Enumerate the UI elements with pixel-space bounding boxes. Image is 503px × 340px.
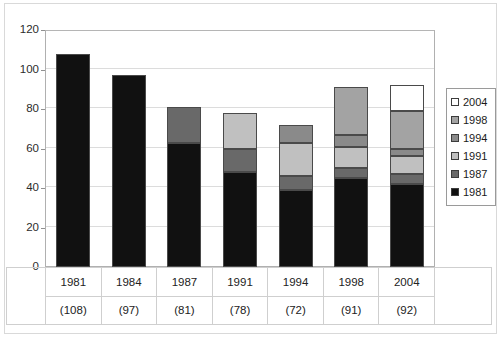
x-axis-total-label: (91) [324,297,379,325]
bar-segment[interactable] [167,107,201,143]
bar-segment[interactable] [223,172,257,267]
bar-column[interactable] [334,30,368,267]
x-axis-total-label: (72) [268,297,323,325]
y-tick-label: 60 [6,142,39,154]
legend-item[interactable]: 1987 [451,165,492,183]
y-tick-label: 100 [6,63,39,75]
legend-item[interactable]: 1991 [451,147,492,165]
bar-column[interactable] [56,30,90,267]
bar-segment[interactable] [334,147,368,169]
bar-segment[interactable] [223,113,257,149]
legend-item[interactable]: 2004 [451,93,492,111]
bar-segment[interactable] [390,149,424,157]
bar-segment[interactable] [223,149,257,173]
bar-column[interactable] [390,30,424,267]
x-axis-cell: 1981(108) [46,267,102,325]
x-axis-category-label: 1987 [157,268,212,297]
x-axis-left-pad [6,267,45,325]
x-axis-total-label: (78) [213,297,268,325]
x-axis-category-label: 1991 [213,268,268,297]
x-axis-category-label: 1981 [46,268,101,297]
bar-segment[interactable] [167,143,201,267]
x-axis-total-label: (92) [379,297,434,325]
x-axis-total-label: (97) [102,297,157,325]
bar-segment[interactable] [390,111,424,149]
bar-segment[interactable] [112,75,146,267]
x-axis-cell: 1984(97) [102,267,158,325]
x-axis-category-label: 1984 [102,268,157,297]
x-axis-cell: 1991(78) [213,267,269,325]
x-axis-total-label: (108) [46,297,101,325]
bar-segment[interactable] [279,143,313,177]
legend-item[interactable]: 1998 [451,111,492,129]
x-axis-category-label: 2004 [379,268,434,297]
legend-swatch [451,188,459,196]
bar-segment[interactable] [390,156,424,174]
y-tick-label: 80 [6,102,39,114]
x-axis-cell: 1987(81) [157,267,213,325]
legend-label: 1994 [463,132,487,144]
bars-layer [45,30,435,267]
x-axis-cell: 2004(92) [379,267,435,325]
x-axis-category-label: 1998 [324,268,379,297]
chart-root: 020406080100120 1981(108)1984(97)1987(81… [0,0,503,340]
bar-segment[interactable] [334,87,368,134]
bar-segment[interactable] [390,174,424,184]
bar-segment[interactable] [279,176,313,190]
bar-segment[interactable] [279,190,313,267]
x-axis-category-label: 1994 [268,268,323,297]
x-axis-total-label: (81) [157,297,212,325]
bar-segment[interactable] [390,85,424,111]
x-axis-cell: 1994(72) [268,267,324,325]
bar-segment[interactable] [334,178,368,267]
legend-swatch [451,170,459,178]
y-tick-label: 40 [6,181,39,193]
bar-segment[interactable] [56,54,90,267]
legend: 200419981994199119871981 [446,88,496,206]
bar-column[interactable] [167,30,201,267]
bar-segment[interactable] [390,184,424,267]
legend-swatch [451,116,459,124]
x-axis-cell: 1998(91) [324,267,380,325]
bar-segment[interactable] [279,125,313,143]
bar-column[interactable] [223,30,257,267]
chart-title [0,0,503,3]
legend-label: 1998 [463,114,487,126]
bar-column[interactable] [112,30,146,267]
legend-swatch [451,134,459,142]
legend-label: 1987 [463,168,487,180]
bar-segment[interactable] [334,135,368,147]
legend-item[interactable]: 1981 [451,183,492,201]
x-axis-labels: 1981(108)1984(97)1987(81)1991(78)1994(72… [45,267,435,325]
y-tick-label: 20 [6,221,39,233]
bar-column[interactable] [279,30,313,267]
y-tick-label: 120 [6,23,39,35]
legend-label: 2004 [463,96,487,108]
legend-swatch [451,152,459,160]
legend-item[interactable]: 1994 [451,129,492,147]
bar-segment[interactable] [334,168,368,178]
legend-label: 1991 [463,150,487,162]
legend-label: 1981 [463,186,487,198]
legend-swatch [451,98,459,106]
x-axis-right-pad [435,267,492,325]
